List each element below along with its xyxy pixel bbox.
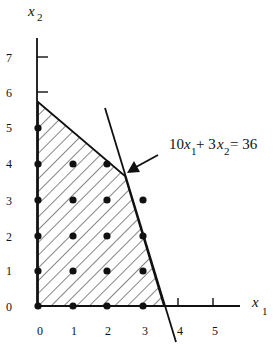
y-axis-ticks	[37, 57, 48, 92]
x-tick-4: 4	[177, 324, 183, 338]
constraint-equation-label: 10 x 1 + 3 x 2 = 36	[169, 136, 258, 157]
x-axis-ticks	[178, 298, 213, 306]
x-tick-labels: 0 1 2 3 4 5	[37, 324, 218, 338]
y-tick-0: 0	[6, 300, 12, 314]
arrow-icon	[127, 155, 158, 173]
x-tick-1: 1	[71, 324, 77, 338]
y-tick-labels: 0 1 2 3 4 5 6 7	[6, 51, 12, 314]
y-tick-7: 7	[6, 51, 12, 65]
y-tick-5: 5	[6, 121, 12, 135]
x-tick-0: 0	[37, 324, 43, 338]
y-tick-6: 6	[6, 86, 12, 100]
y-tick-4: 4	[6, 157, 12, 171]
x-tick-3: 3	[142, 324, 148, 338]
svg-text:10: 10	[169, 136, 184, 152]
lp-diagram: 0 1 2 3 4 5 6 7 0 1 2 3 4 5 x 2 x 1 10 x…	[0, 0, 274, 349]
y-tick-1: 1	[6, 264, 12, 278]
svg-text:2: 2	[37, 11, 43, 23]
svg-text:2: 2	[224, 145, 230, 157]
svg-text:x: x	[27, 3, 35, 19]
feasible-region	[38, 102, 164, 306]
y-axis-label: x 2	[27, 3, 43, 23]
svg-text:x: x	[216, 136, 224, 152]
svg-text:+ 3: + 3	[196, 136, 216, 152]
svg-text:= 36: = 36	[230, 136, 258, 152]
x-tick-5: 5	[212, 324, 218, 338]
x-tick-2: 2	[105, 324, 111, 338]
svg-text:x: x	[251, 294, 259, 310]
svg-text:x: x	[183, 136, 191, 152]
y-tick-2: 2	[6, 230, 12, 244]
x-axis-label: x 1	[251, 294, 268, 317]
svg-text:1: 1	[262, 305, 268, 317]
y-tick-3: 3	[6, 194, 12, 208]
